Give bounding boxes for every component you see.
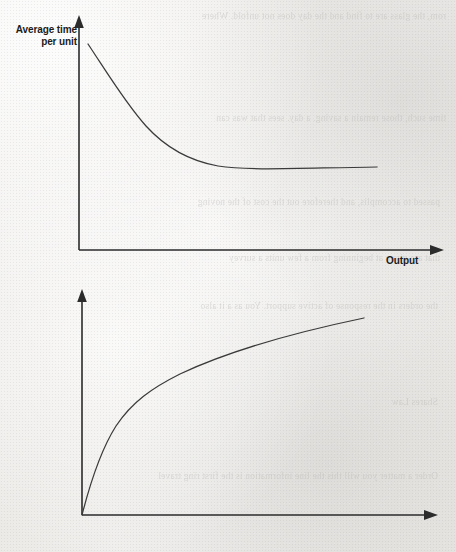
y-axis-arrowhead — [77, 289, 87, 302]
total-time-curve — [82, 318, 364, 515]
x-axis-label-average: Output — [386, 255, 418, 267]
average-time-curve — [88, 44, 377, 169]
chart-total-time: Total time Output — [0, 280, 456, 552]
y-axis-label-average: Average time per unit — [8, 24, 77, 47]
x-axis-arrowhead — [424, 510, 438, 520]
x-axis-arrowhead — [430, 245, 444, 255]
total-chart-canvas — [0, 280, 456, 552]
chart-average-time-per-unit: Average time per unit Output — [0, 0, 456, 280]
scanned-figure-page: rom, the glass are to find and the day d… — [0, 0, 456, 552]
